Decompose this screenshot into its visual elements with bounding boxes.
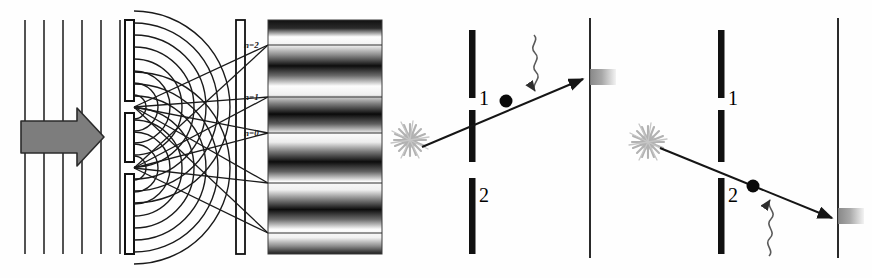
figure-canvas: n=2 n=1 n=0 1 2 bbox=[0, 0, 872, 278]
detector-spot-1 bbox=[590, 69, 616, 85]
double-slit-barrier-2 bbox=[718, 30, 725, 254]
slit-label-2-panel2: 2 bbox=[728, 184, 738, 206]
interference-fringe-pattern bbox=[268, 20, 382, 254]
detector-spot-2 bbox=[838, 208, 864, 224]
particle-dot-2 bbox=[747, 180, 760, 193]
figure-caption bbox=[0, 266, 872, 278]
order-label-n2: n=2 bbox=[244, 40, 259, 50]
order-label-n0: n=0 bbox=[244, 128, 259, 138]
particle-dot-1 bbox=[500, 95, 513, 108]
double-slit-barrier-1 bbox=[469, 30, 476, 254]
double-slit-barrier-wave bbox=[125, 20, 134, 254]
order-label-n1: n=1 bbox=[244, 92, 259, 102]
double-slit-figure: n=2 n=1 n=0 1 2 bbox=[0, 0, 872, 278]
slit-label-1-panel1: 1 bbox=[479, 87, 489, 109]
slit-label-1-panel2: 1 bbox=[728, 87, 738, 109]
slit-label-2-panel1: 2 bbox=[479, 184, 489, 206]
